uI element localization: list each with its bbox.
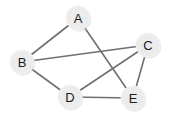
graph-canvas: ABCDE xyxy=(0,0,177,124)
node-label-d: D xyxy=(65,90,74,105)
node-label-e: E xyxy=(129,91,138,106)
graph-node-a[interactable]: A xyxy=(66,6,91,32)
graph-node-d[interactable]: D xyxy=(58,85,83,111)
node-label-c: C xyxy=(143,38,152,53)
graph-figure: ABCDE xyxy=(0,0,177,124)
node-label-b: B xyxy=(18,55,27,70)
graph-node-e[interactable]: E xyxy=(121,86,146,112)
node-layer: ABCDE xyxy=(10,6,161,112)
graph-node-b[interactable]: B xyxy=(10,50,35,76)
node-label-a: A xyxy=(74,11,83,26)
graph-node-c[interactable]: C xyxy=(136,33,161,59)
